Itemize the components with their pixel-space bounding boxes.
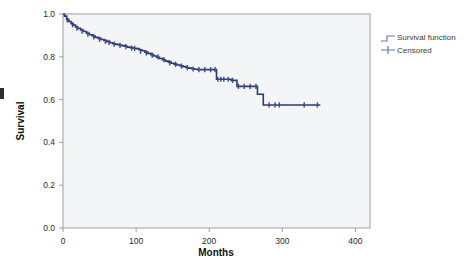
plus-tick-icon	[381, 46, 395, 54]
y-tick-label: 0.6	[43, 95, 55, 105]
survival-chart: 0100200300400 1.00.80.60.40.20.0 Months …	[0, 0, 466, 268]
step-line-icon	[381, 36, 395, 41]
legend-label-censored: Censored	[397, 46, 432, 55]
legend-item-survival-function[interactable]: Survival function	[381, 33, 456, 42]
y-tick-label: 1.0	[43, 9, 55, 19]
chart-legend: Survival function Censored	[381, 33, 456, 55]
y-axis-title: Survival	[15, 101, 26, 140]
legend-label-survival-function: Survival function	[397, 33, 456, 42]
x-axis-title: Months	[198, 247, 234, 258]
y-tick-label: 0.8	[43, 52, 55, 62]
y-tick-label: 0.4	[43, 137, 55, 147]
y-axis-ticks: 1.00.80.60.40.20.0	[43, 9, 63, 233]
x-tick-label: 100	[129, 236, 143, 246]
legend-item-censored[interactable]: Censored	[381, 46, 432, 55]
x-tick-label: 400	[348, 236, 362, 246]
y-tick-label: 0.2	[43, 180, 55, 190]
y-tick-label: 0.0	[43, 223, 55, 233]
x-tick-label: 200	[202, 236, 216, 246]
plot-area-background	[63, 14, 370, 228]
x-tick-label: 300	[275, 236, 289, 246]
x-tick-label: 0	[61, 236, 66, 246]
x-axis-ticks: 0100200300400	[61, 228, 363, 246]
